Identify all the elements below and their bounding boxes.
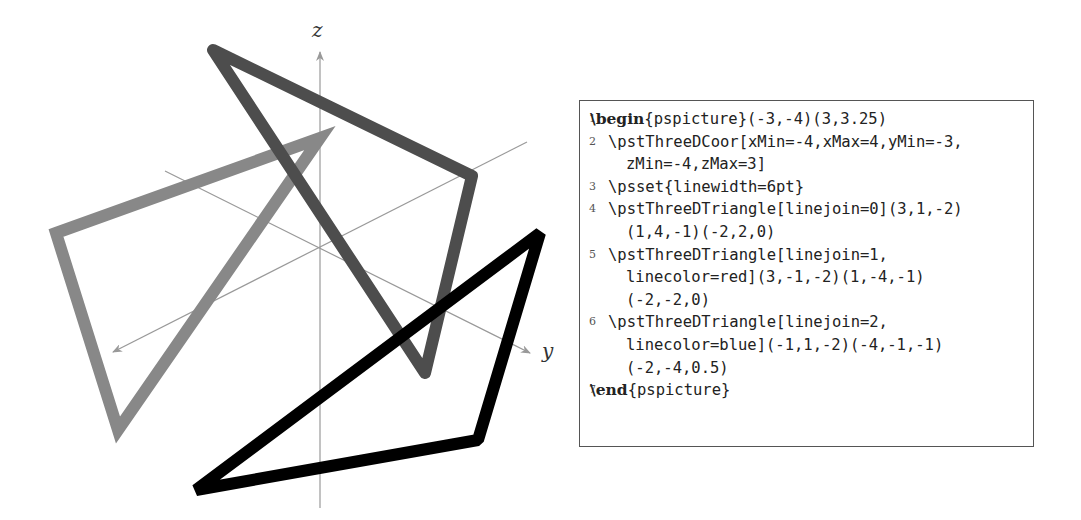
line-number: 4 [578,198,596,220]
code-line: zMin=-4,zMax=3] [626,153,766,175]
figure-canvas: z y [0,0,560,520]
code-line: \pstThreeDTriangle[linejoin=1, [608,244,888,266]
code-text: linecolor=blue](-1,1,-2)(-4,-1,-1) [626,336,943,354]
code-line: \end{pspicture} [590,379,730,401]
triangle-linejoin-0 [56,138,320,430]
line-number: 3 [578,176,596,198]
code-keyword: \end [590,380,628,399]
code-line: (-2,-2,0) [626,289,710,311]
code-text: {pspicture} [628,381,731,399]
code-text: \psset{linewidth=6pt} [608,178,804,196]
code-text: \pstThreeDTriangle[linejoin=0](3,1,-2) [608,200,963,218]
code-line: \psset{linewidth=6pt} [608,176,804,198]
code-text: {pspicture}(-3,-4)(3,3.25) [644,110,887,128]
code-line: (-2,-4,0.5) [626,357,729,379]
code-line: \pstThreeDTriangle[linejoin=2, [608,311,888,333]
code-line: \pstThreeDCoor[xMin=-4,xMax=4,yMin=-3, [608,131,963,153]
code-line: \begin{pspicture}(-3,-4)(3,3.25) [590,108,887,130]
code-text: zMin=-4,zMax=3] [626,155,766,173]
3d-triangle-figure: z y [0,0,560,520]
triangle-linejoin-2-blue [196,233,540,490]
code-text: (1,4,-1)(-2,2,0) [626,223,775,241]
code-keyword: \begin [590,109,644,128]
code-text: linecolor=red](3,-1,-2)(1,-4,-1) [626,268,925,286]
code-text: \pstThreeDTriangle[linejoin=2, [608,313,888,331]
code-text: (-2,-4,0.5) [626,359,729,377]
code-listing: 1\begin{pspicture}(-3,-4)(3,3.25)2\pstTh… [579,100,1034,447]
code-line: linecolor=blue](-1,1,-2)(-4,-1,-1) [626,334,943,356]
code-line: \pstThreeDTriangle[linejoin=0](3,1,-2) [608,198,963,220]
triangles [56,50,540,490]
triangle-linejoin-1-red [213,50,472,373]
line-number: 2 [578,131,596,153]
code-text: \pstThreeDTriangle[linejoin=1, [608,246,888,264]
line-number: 5 [578,244,596,266]
y-axis-label: y [541,339,554,363]
code-text: \pstThreeDCoor[xMin=-4,xMax=4,yMin=-3, [608,133,963,151]
code-line: linecolor=red](3,-1,-2)(1,-4,-1) [626,266,925,288]
z-axis-label: z [311,18,323,42]
code-text: (-2,-2,0) [626,291,710,309]
line-number: 6 [578,311,596,333]
code-line: (1,4,-1)(-2,2,0) [626,221,775,243]
